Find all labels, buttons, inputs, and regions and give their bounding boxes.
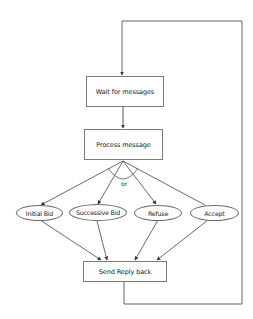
refuse-to-send-reply-arrow bbox=[135, 220, 158, 260]
refuse-label: Refuse bbox=[148, 210, 168, 217]
successive-bid-label: Successive Bid bbox=[76, 209, 120, 216]
send-reply-back-node: Send Reply back bbox=[83, 261, 167, 282]
wait-for-messages-label: Wait for messages bbox=[96, 88, 154, 96]
process-to-refuse-arrow bbox=[123, 161, 156, 204]
process-to-accept-arrow bbox=[123, 161, 205, 205]
process-message-label: Process message bbox=[96, 141, 150, 149]
process-to-initial-bid-arrow bbox=[41, 161, 123, 205]
wait-for-messages-node: Wait for messages bbox=[86, 76, 164, 107]
process-message-node: Process message bbox=[84, 129, 163, 160]
initial-bid-to-send-reply-arrow bbox=[40, 220, 101, 260]
refuse-node: Refuse bbox=[134, 205, 182, 221]
accept-node: Accept bbox=[190, 205, 239, 221]
successive-bid-to-send-reply-arrow bbox=[97, 221, 107, 260]
successive-bid-node: Successive Bid bbox=[69, 204, 127, 221]
or-arc bbox=[108, 168, 138, 179]
initial-bid-node: Initial Bid bbox=[16, 205, 63, 221]
accept-to-send-reply-arrow bbox=[157, 220, 208, 260]
initial-bid-label: Initial Bid bbox=[26, 210, 53, 217]
or-label: or bbox=[121, 180, 127, 187]
send-reply-back-label: Send Reply back bbox=[99, 268, 151, 276]
accept-label: Accept bbox=[204, 210, 224, 217]
